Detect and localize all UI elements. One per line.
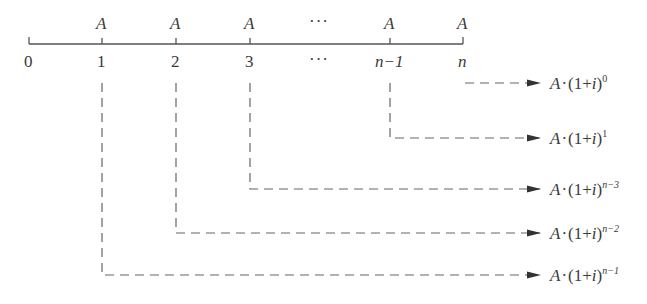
period-label-1: 1: [97, 53, 106, 70]
flow-line-n-minus-1: [390, 83, 540, 138]
payment-label-1: A: [96, 15, 106, 32]
fv-expression-2: A·(1+i)n−2: [550, 225, 619, 242]
payment-label-2: A: [170, 15, 180, 32]
fv-expression-n: A·(1+i)0: [550, 75, 607, 92]
diagram-canvas: [0, 0, 647, 304]
payment-label-n-minus-1: A: [384, 15, 394, 32]
payment-ellipsis: ···: [309, 13, 329, 30]
flow-line-1: [102, 83, 540, 275]
period-ellipsis: ···: [309, 51, 329, 68]
fv-expression-n-minus-1: A·(1+i)1: [550, 130, 607, 147]
flow-line-3: [250, 83, 540, 189]
period-label-n: n: [458, 53, 467, 70]
period-label-2: 2: [171, 53, 180, 70]
flow-line-2: [176, 83, 540, 233]
fv-expression-3: A·(1+i)n−3: [550, 181, 619, 198]
payment-label-3: A: [244, 15, 254, 32]
period-label-n-minus-1: n−1: [375, 53, 403, 70]
period-label-3: 3: [245, 53, 254, 70]
period-label-0: 0: [24, 53, 33, 70]
fv-expression-1: A·(1+i)n−1: [550, 267, 619, 284]
payment-label-n: A: [457, 15, 467, 32]
timeline-axis: [29, 37, 463, 44]
